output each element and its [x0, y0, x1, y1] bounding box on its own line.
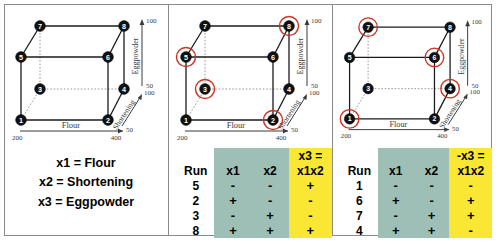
- table-row: 4 + + -: [341, 223, 492, 238]
- flour-axis-label: Flour: [227, 120, 246, 130]
- flour-axis-label: Flour: [389, 120, 407, 129]
- cube-vertex-label-4: 4: [448, 85, 452, 92]
- design-of-experiments-figure: 12345678Flour200400Eggpowder10050Shorten…: [0, 0, 498, 241]
- cell-run: 6: [341, 193, 378, 208]
- cell-x1: +: [378, 193, 414, 208]
- shortening-axis-min-tick: 50: [291, 126, 299, 134]
- design-table-plus: x3 = Run x1 x2 x1x2 5 - - +: [177, 148, 332, 238]
- cube-svg-2: 12345678Flour200400Eggpowder10050Shorten…: [333, 4, 493, 144]
- cell-run: 2: [177, 193, 214, 208]
- flour-axis-min-tick: 200: [177, 134, 188, 142]
- table-row: 7 - + +: [341, 208, 492, 223]
- cube-vertex-label-8: 8: [448, 24, 452, 31]
- cube-vertex-label-2: 2: [433, 115, 437, 122]
- header-spacer-x2: [414, 148, 450, 163]
- cube-vertex-label-3: 3: [38, 85, 42, 94]
- cell-x1: +: [378, 223, 414, 238]
- table-header-row: Run x1 x2 x1x2: [341, 163, 492, 178]
- cube-diagram-minus: 12345678Flour200400Eggpowder10050Shorten…: [333, 4, 492, 144]
- eggpowder-axis-arrow: [465, 20, 470, 26]
- header-spacer-x1: [214, 148, 251, 163]
- cell-x1: -: [214, 208, 251, 223]
- eggpowder-axis-label: Eggpowder: [296, 37, 305, 74]
- table-header-row: Run x1 x2 x1x2: [177, 163, 332, 178]
- shortening-axis-arrow: [463, 94, 467, 100]
- header-spacer: [341, 148, 378, 163]
- cube-vertex-label-6: 6: [433, 54, 437, 61]
- cube-diagram-plus: 12345678Flour200400Eggpowder10050Shorten…: [169, 4, 332, 144]
- eggpowder-axis-max-tick: 100: [311, 17, 322, 25]
- header-x1: x1: [214, 163, 251, 178]
- header-spacer: [177, 148, 214, 163]
- cube-vertex-label-7: 7: [38, 22, 42, 31]
- cell-run: 5: [177, 178, 214, 193]
- cube-vertex-label-2: 2: [106, 116, 110, 125]
- cell-x2: -: [252, 193, 289, 208]
- eggpowder-axis-label: Eggpowder: [457, 38, 466, 74]
- header-x3-top: -x3 =: [449, 148, 492, 163]
- shortening-axis-max-tick: 100: [144, 89, 155, 97]
- shortening-axis-label: Shortening: [437, 97, 463, 130]
- cell-x1: -: [214, 178, 251, 193]
- eggpowder-axis-arrow: [140, 19, 145, 25]
- cube-vertex-label-8: 8: [287, 22, 291, 31]
- cube-vertex-label-2: 2: [271, 116, 275, 125]
- cube-vertex-label-1: 1: [348, 115, 352, 122]
- cube-vertex-label-3: 3: [366, 85, 370, 92]
- header-run: Run: [177, 163, 214, 178]
- cube-vertex-label-1: 1: [184, 116, 188, 125]
- cell-x3: +: [289, 223, 332, 238]
- cell-x3: +: [449, 208, 492, 223]
- cube-vertex-label-5: 5: [184, 53, 188, 62]
- cell-x1: +: [214, 193, 251, 208]
- table-row: 5 - - +: [177, 178, 332, 193]
- shortening-axis-min-tick: 50: [126, 126, 134, 134]
- cube-vertex-label-6: 6: [106, 53, 110, 62]
- design-table-minus: -x3 = Run x1 x2 x1x2 1 - - -: [341, 148, 492, 238]
- header-run: Run: [341, 163, 378, 178]
- eggpowder-axis-max-tick: 100: [472, 18, 483, 25]
- cube-svg-1: 12345678Flour200400Eggpowder10050Shorten…: [169, 4, 333, 144]
- shortening-axis-label: Shortening: [111, 98, 137, 132]
- cell-run: 8: [177, 223, 214, 238]
- cell-x2: -: [414, 178, 450, 193]
- cell-x1: -: [378, 208, 414, 223]
- variable-legend: x1 = Flour x2 = Shortening x3 = Eggpowde…: [4, 144, 168, 212]
- flour-axis-max-tick: 400: [437, 132, 448, 139]
- shortening-axis-max-tick: 100: [470, 88, 481, 95]
- cell-run: 1: [341, 178, 378, 193]
- eggpowder-axis-arrow: [305, 19, 310, 25]
- cell-x3: -: [289, 193, 332, 208]
- table-row: 6 + - +: [341, 193, 492, 208]
- flour-axis-label: Flour: [62, 120, 81, 130]
- cell-run: 4: [341, 223, 378, 238]
- cube-vertex-label-8: 8: [122, 22, 126, 31]
- cell-x3: +: [449, 193, 492, 208]
- cube-vertex-label-5: 5: [348, 54, 352, 61]
- table-row: 3 - + -: [177, 208, 332, 223]
- design-table-wrap-minus: -x3 = Run x1 x2 x1x2 1 - - -: [333, 144, 492, 240]
- flour-axis-min-tick: 200: [12, 134, 23, 142]
- cell-x1: -: [378, 178, 414, 193]
- cell-x2: +: [414, 208, 450, 223]
- flour-axis-max-tick: 400: [276, 134, 287, 142]
- cell-x2: +: [414, 223, 450, 238]
- cell-x2: +: [252, 208, 289, 223]
- shortening-axis-arrow: [303, 94, 307, 100]
- cell-x3: -: [449, 223, 492, 238]
- cube-vertex-label-5: 5: [19, 53, 23, 62]
- cell-x3: +: [289, 178, 332, 193]
- cube-vertex-label-7: 7: [203, 22, 207, 31]
- cell-x2: -: [414, 193, 450, 208]
- shortening-axis-max-tick: 100: [309, 89, 320, 97]
- eggpowder-axis-max-tick: 100: [146, 17, 157, 25]
- table-header-top-row: -x3 =: [341, 148, 492, 163]
- cell-x2: +: [252, 223, 289, 238]
- cube-diagram-full: 12345678Flour200400Eggpowder10050Shorten…: [4, 4, 168, 144]
- header-x2: x2: [252, 163, 289, 178]
- cell-x1: +: [214, 223, 251, 238]
- cell-run: 7: [341, 208, 378, 223]
- header-x1: x1: [378, 163, 414, 178]
- header-x3-bot: x1x2: [289, 163, 332, 178]
- cube-vertex-label-4: 4: [287, 85, 291, 94]
